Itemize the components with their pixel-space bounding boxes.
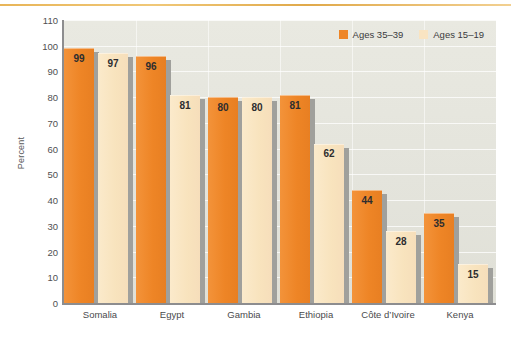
- bar-value-label: 44: [352, 195, 382, 206]
- chart-figure: Percent 0102030405060708090100110 999796…: [0, 0, 511, 345]
- bar: [242, 97, 272, 303]
- bar-value-label: 15: [458, 269, 488, 280]
- bar: [98, 53, 128, 303]
- bar-fill: [98, 53, 128, 303]
- x-axis-label: Somalia: [83, 309, 117, 320]
- bar-fill: [280, 95, 310, 303]
- bar-value-label: 62: [314, 148, 344, 159]
- bar-shadow: [200, 99, 205, 303]
- bar-fill: [242, 97, 272, 303]
- bar: [280, 95, 310, 303]
- y-tick-label: 70: [24, 117, 58, 128]
- bar-top-highlight: [242, 97, 272, 98]
- plot-area: 999796818080816244283515 Ages 35–39 Ages…: [64, 20, 496, 303]
- y-tick-label: 60: [24, 143, 58, 154]
- x-axis-label: Côte d’Ivoire: [361, 309, 414, 320]
- y-tick-label: 100: [24, 40, 58, 51]
- y-tick-label: 30: [24, 220, 58, 231]
- legend-swatch-icon-series-2: [419, 30, 428, 39]
- bar-top-highlight: [98, 53, 128, 54]
- y-tick-label: 90: [24, 66, 58, 77]
- y-tick-label: 40: [24, 195, 58, 206]
- bar-fill: [64, 48, 94, 303]
- x-axis-label: Gambia: [227, 309, 260, 320]
- x-axis-label: Egypt: [160, 309, 184, 320]
- y-tick-label: 20: [24, 246, 58, 257]
- bar-fill: [208, 97, 238, 303]
- bar: [64, 48, 94, 303]
- bar-value-label: 96: [136, 61, 166, 72]
- legend: Ages 35–39 Ages 15–19: [339, 29, 484, 40]
- bar: [314, 144, 344, 304]
- legend-label-series-1: Ages 35–39: [353, 29, 404, 40]
- bar-fill: [352, 190, 382, 303]
- bar: [136, 56, 166, 303]
- bar-fill: [136, 56, 166, 303]
- bar-top-highlight: [280, 95, 310, 96]
- bar-top-highlight: [136, 56, 166, 57]
- bar-top-highlight: [208, 97, 238, 98]
- x-axis-category-labels: SomaliaEgyptGambiaEthiopiaCôte d’IvoireK…: [64, 309, 496, 329]
- bar-top-highlight: [314, 144, 344, 145]
- legend-item-ages-15-19[interactable]: Ages 15–19: [419, 29, 484, 40]
- y-axis-line: [62, 20, 64, 304]
- legend-swatch-icon-series-1: [339, 30, 348, 39]
- bar-shadow: [416, 235, 421, 303]
- bar-shadow: [128, 57, 133, 303]
- bar-fill: [314, 144, 344, 304]
- bar-top-highlight: [424, 213, 454, 214]
- y-tick-label: 0: [24, 298, 58, 309]
- legend-label-series-2: Ages 15–19: [433, 29, 484, 40]
- bar-top-highlight: [458, 264, 488, 265]
- bar-shadow: [344, 148, 349, 304]
- bar: [352, 190, 382, 303]
- bar-value-label: 80: [242, 102, 272, 113]
- bar-shadow: [488, 268, 493, 303]
- bar-fill: [170, 95, 200, 303]
- bar-value-label: 80: [208, 102, 238, 113]
- bar-value-label: 81: [170, 100, 200, 111]
- legend-item-ages-35-39[interactable]: Ages 35–39: [339, 29, 404, 40]
- top-divider-rule: [0, 4, 511, 6]
- y-tick-label: 80: [24, 92, 58, 103]
- bar-value-label: 97: [98, 58, 128, 69]
- x-axis-line: [62, 303, 496, 305]
- bar-top-highlight: [386, 231, 416, 232]
- y-tick-label: 50: [24, 169, 58, 180]
- bar: [208, 97, 238, 303]
- bar-value-label: 99: [64, 53, 94, 64]
- bar-top-highlight: [352, 190, 382, 191]
- x-axis-label: Kenya: [447, 309, 474, 320]
- bar-top-highlight: [64, 48, 94, 49]
- bar: [170, 95, 200, 303]
- bar-value-label: 35: [424, 218, 454, 229]
- y-axis-tick-labels: 0102030405060708090100110: [24, 20, 58, 302]
- bar-shadow: [272, 101, 277, 303]
- x-axis-label: Ethiopia: [299, 309, 333, 320]
- bar-top-highlight: [170, 95, 200, 96]
- y-tick-label: 110: [24, 15, 58, 26]
- bar-value-label: 81: [280, 100, 310, 111]
- y-tick-label: 10: [24, 272, 58, 283]
- bar-value-label: 28: [386, 236, 416, 247]
